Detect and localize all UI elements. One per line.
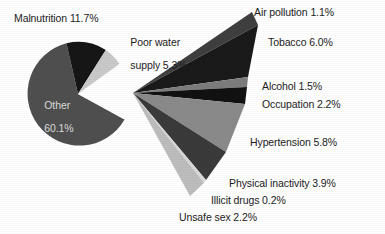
label-poor-water-supply: Poor water supply 5.3% — [119, 25, 186, 83]
label-other-line2: 60.1% — [44, 122, 73, 134]
label-air-pollution: Air pollution 1.1% — [254, 7, 334, 19]
label-other-line1: Other — [44, 99, 70, 111]
label-occupation: Occupation 2.2% — [262, 99, 340, 111]
label-poor-water-line2: supply 5.3% — [130, 59, 186, 71]
label-physical-inactivity: Physical inactivity 3.9% — [229, 178, 336, 190]
label-poor-water-line1: Poor water — [130, 36, 180, 48]
label-illicit-drugs: Illicit drugs 0.2% — [211, 195, 286, 207]
pie-of-pie-chart: Malnutrition 11.7% Poor water supply 5.3… — [0, 0, 385, 234]
label-hypertension: Hypertension 5.8% — [250, 137, 337, 149]
label-other: Other 60.1% — [33, 88, 74, 146]
label-alcohol: Alcohol 1.5% — [262, 81, 322, 93]
label-tobacco: Tobacco 6.0% — [268, 37, 333, 49]
label-unsafe-sex: Unsafe sex 2.2% — [179, 212, 257, 224]
label-malnutrition: Malnutrition 11.7% — [14, 13, 98, 25]
